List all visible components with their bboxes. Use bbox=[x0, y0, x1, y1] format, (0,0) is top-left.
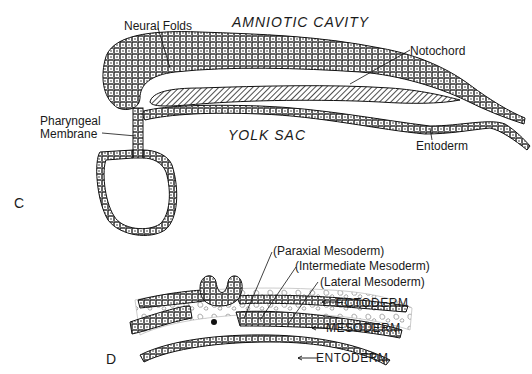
ectoderm-label: ECTODERM bbox=[336, 297, 408, 309]
pharyngeal-label-line1: Pharyngeal bbox=[40, 115, 101, 127]
neural-folds-label: Neural Folds bbox=[124, 20, 192, 32]
panel-d-letter: D bbox=[106, 352, 116, 366]
pharyngeal-membrane bbox=[133, 108, 143, 158]
notochord bbox=[150, 86, 460, 106]
notochord-dot bbox=[211, 319, 217, 325]
mesoderm-label: MESODERM bbox=[326, 322, 401, 334]
panel-c-letter: C bbox=[14, 196, 24, 210]
panel-c-drawing bbox=[97, 28, 530, 235]
intermediate-mesoderm-label: (Intermediate Mesoderm) bbox=[295, 260, 430, 272]
foregut-loop bbox=[97, 150, 177, 235]
entoderm-layer bbox=[140, 105, 530, 150]
entoderm-label-d: ENTODERM bbox=[316, 352, 388, 364]
yolk-sac-label: YOLK SAC bbox=[228, 128, 306, 142]
amniotic-cavity-label: AMNIOTIC CAVITY bbox=[232, 15, 369, 29]
entoderm-label: Entoderm bbox=[416, 140, 468, 152]
lateral-mesoderm-label: (Lateral Mesoderm) bbox=[320, 276, 425, 288]
paraxial-mesoderm-label: (Paraxial Mesoderm) bbox=[273, 245, 384, 257]
pharyngeal-label-line2: Membrane bbox=[40, 128, 97, 140]
notochord-label: Notochord bbox=[410, 45, 465, 57]
